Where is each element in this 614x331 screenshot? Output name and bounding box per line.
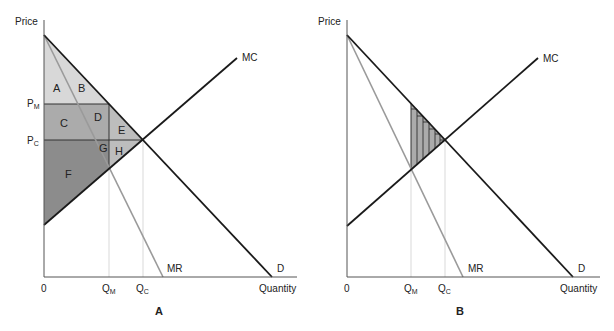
d-label-b: D bbox=[578, 263, 585, 274]
pm-label: PM bbox=[27, 98, 40, 110]
mc-label-a: MC bbox=[242, 52, 258, 63]
region-label-d: D bbox=[94, 111, 102, 123]
origin-label-b: 0 bbox=[344, 283, 350, 294]
panel-label-b: B bbox=[456, 305, 464, 317]
mr-curve-b bbox=[347, 35, 463, 277]
qm-label-b: QM bbox=[404, 283, 418, 295]
mc-label-b: MC bbox=[543, 53, 559, 64]
qm-label-a: QM bbox=[102, 283, 116, 295]
region-label-f: F bbox=[65, 168, 72, 180]
x-axis-label-a: Quantity bbox=[259, 283, 296, 294]
monopoly-welfare-diagram: A B C D E F G H Price Quantity 0 PM PC Q… bbox=[0, 0, 614, 331]
origin-label-a: 0 bbox=[41, 283, 47, 294]
demand-curve-b bbox=[347, 35, 573, 277]
region-label-c: C bbox=[60, 117, 68, 129]
y-axis-label-b: Price bbox=[318, 16, 341, 27]
panel-label-a: A bbox=[155, 305, 163, 317]
panel-a: A B C D E F G H Price Quantity 0 PM PC Q… bbox=[15, 16, 297, 317]
y-axis-label-a: Price bbox=[15, 16, 38, 27]
qc-label-a: QC bbox=[136, 283, 149, 295]
region-label-h: H bbox=[115, 145, 123, 157]
region-label-e: E bbox=[118, 124, 125, 136]
mr-label-b: MR bbox=[468, 263, 484, 274]
region-label-b: B bbox=[78, 82, 85, 94]
region-label-a: A bbox=[53, 82, 61, 94]
x-axis-label-b: Quantity bbox=[560, 283, 597, 294]
panel-b: Price Quantity 0 QM QC MC MR D B bbox=[318, 16, 600, 317]
qc-label-b: QC bbox=[438, 283, 451, 295]
d-label-a: D bbox=[277, 263, 284, 274]
mr-label-a: MR bbox=[167, 263, 183, 274]
pc-label: PC bbox=[27, 135, 39, 147]
region-label-g: G bbox=[99, 142, 108, 154]
mc-curve-b bbox=[347, 58, 538, 226]
